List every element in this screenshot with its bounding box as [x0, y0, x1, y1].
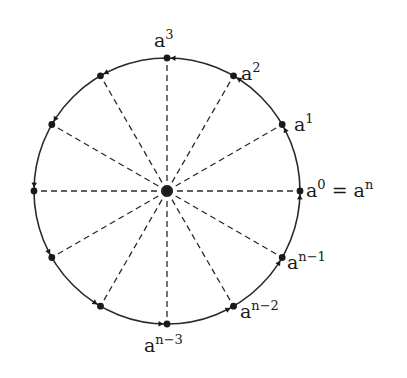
- center-star-icon: [161, 185, 173, 197]
- element-dot: [230, 72, 237, 79]
- spoke-line: [167, 76, 234, 191]
- spoke-line: [167, 191, 234, 306]
- element-dot: [31, 188, 38, 195]
- element-dot: [97, 303, 104, 310]
- spoke-line: [167, 191, 282, 258]
- element-dot: [230, 303, 237, 310]
- spoke-line: [167, 125, 282, 192]
- label-an-minus-2: an−2: [240, 298, 279, 322]
- spoke-line: [101, 191, 168, 306]
- element-dot: [97, 72, 104, 79]
- direction-arrow-icon: [297, 194, 303, 199]
- label-an-minus-3: an−3: [144, 332, 183, 356]
- direction-arrow-icon: [31, 182, 37, 187]
- element-dot: [279, 254, 286, 261]
- cyclic-group-diagram: a0 = an a1 a2 a3 an−1 an−2 an−3: [0, 0, 407, 378]
- element-dot: [164, 55, 171, 62]
- label-a1: a1: [294, 111, 314, 135]
- element-dot: [48, 254, 55, 261]
- spoke-line: [101, 76, 168, 191]
- direction-arrow-icon: [170, 55, 175, 61]
- element-dot: [48, 121, 55, 128]
- element-dot: [279, 121, 286, 128]
- spoke-line: [52, 191, 167, 258]
- label-an-minus-1: an−1: [287, 249, 326, 273]
- direction-arrow-icon: [158, 321, 163, 327]
- element-dot: [297, 188, 304, 195]
- label-a0: a0 = an: [306, 177, 374, 201]
- label-a2: a2: [241, 60, 261, 84]
- label-a3: a3: [154, 27, 174, 51]
- spoke-line: [52, 125, 167, 192]
- element-dot: [164, 321, 171, 328]
